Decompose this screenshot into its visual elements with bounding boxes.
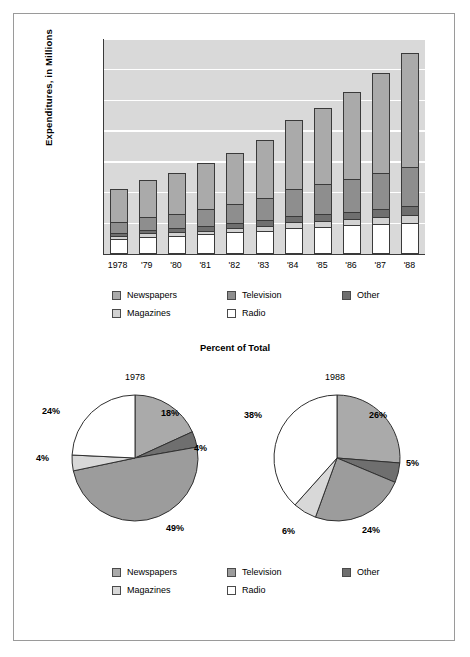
- pie-value-label: 24%: [362, 525, 380, 535]
- legend-item-television[interactable]: Television: [227, 290, 282, 300]
- legend-swatch-icon: [112, 586, 121, 595]
- plot-area: [103, 39, 425, 255]
- bar-segment-radio: [140, 238, 156, 253]
- bar[interactable]: [256, 140, 274, 254]
- pie-chart-legend: NewspapersTelevisionOtherMagazinesRadio: [112, 567, 442, 603]
- bar-segment-newspapers: [140, 181, 156, 219]
- pie-value-label: 26%: [369, 410, 387, 420]
- legend-swatch-icon: [342, 291, 351, 300]
- stacked-bar-chart: Expenditures, in Millions $0$20,000$40,0…: [14, 14, 456, 326]
- bar-segment-television: [402, 168, 418, 207]
- legend-swatch-icon: [342, 568, 351, 577]
- legend-label: Newspapers: [127, 290, 177, 300]
- x-tick-label: '88: [387, 260, 431, 270]
- bar-segment-radio: [344, 226, 360, 253]
- pie-section-title: Percent of Total: [14, 342, 456, 353]
- bar-segment-newspapers: [227, 154, 243, 205]
- pie-value-label: 6%: [282, 526, 295, 536]
- bar-segment-television: [169, 215, 185, 229]
- bar-segment-newspapers: [257, 141, 273, 199]
- legend-item-magazines[interactable]: Magazines: [112, 585, 171, 595]
- pie-chart-section: Percent of Total 1978 1988 18%4%49%4%24%…: [14, 330, 456, 642]
- bar-segment-television: [111, 223, 127, 234]
- bar-segment-radio: [198, 235, 214, 253]
- legend-swatch-icon: [227, 291, 236, 300]
- bar-segment-radio: [315, 228, 331, 253]
- bar[interactable]: [168, 173, 186, 254]
- legend-swatch-icon: [112, 568, 121, 577]
- legend-swatch-icon: [112, 291, 121, 300]
- bar[interactable]: [314, 108, 332, 254]
- pie-value-label: 18%: [161, 408, 179, 418]
- bar-segment-radio: [257, 232, 273, 253]
- bar-segment-radio: [286, 229, 302, 253]
- bar-segment-newspapers: [169, 174, 185, 215]
- pie-slice-radio[interactable]: [72, 395, 135, 458]
- pie-value-label: 24%: [42, 406, 60, 416]
- pie-year-1978: 1978: [95, 372, 175, 382]
- figure-frame: Expenditures, in Millions $0$20,000$40,0…: [13, 13, 455, 641]
- bar-segment-television: [373, 174, 389, 210]
- bar-segment-radio: [227, 233, 243, 253]
- pie-value-label: 49%: [166, 523, 184, 533]
- bar-segment-newspapers: [198, 164, 214, 211]
- bar[interactable]: [343, 92, 361, 254]
- legend-swatch-icon: [227, 586, 236, 595]
- bar-segment-newspapers: [286, 121, 302, 190]
- legend-label: Television: [242, 290, 282, 300]
- bar-segment-television: [140, 218, 156, 231]
- y-axis-label: Expenditures, in Millions: [43, 8, 54, 168]
- legend-swatch-icon: [227, 309, 236, 318]
- bar-segment-television: [198, 210, 214, 227]
- legend-item-other[interactable]: Other: [342, 290, 380, 300]
- bar-segment-magazines: [373, 218, 389, 225]
- bar-segment-newspapers: [111, 190, 127, 223]
- bar-segment-television: [286, 190, 302, 217]
- bar-segment-television: [227, 205, 243, 224]
- bar[interactable]: [197, 163, 215, 254]
- legend-swatch-icon: [227, 568, 236, 577]
- bar[interactable]: [285, 120, 303, 254]
- bar-segment-newspapers: [402, 54, 418, 168]
- bar[interactable]: [226, 153, 244, 254]
- pie-value-label: 4%: [36, 453, 49, 463]
- legend-item-radio[interactable]: Radio: [227, 585, 266, 595]
- pie-year-1988: 1988: [295, 372, 375, 382]
- bar[interactable]: [372, 73, 390, 254]
- legend-label: Magazines: [127, 585, 171, 595]
- legend-label: Radio: [242, 585, 266, 595]
- bar-segment-television: [344, 180, 360, 213]
- bar-segment-radio: [373, 225, 389, 253]
- bar[interactable]: [110, 189, 128, 254]
- bar-segment-television: [315, 185, 331, 215]
- pie-value-label: 38%: [244, 410, 262, 420]
- pie-value-label: 5%: [406, 458, 419, 468]
- bar-group: [104, 39, 425, 254]
- bar-segment-newspapers: [373, 74, 389, 174]
- bar-segment-magazines: [402, 216, 418, 224]
- bar-segment-other: [373, 210, 389, 218]
- bar-segment-newspapers: [315, 109, 331, 185]
- legend-item-radio[interactable]: Radio: [227, 308, 266, 318]
- legend-label: Radio: [242, 308, 266, 318]
- legend-label: Other: [357, 567, 380, 577]
- bar-segment-radio: [169, 237, 185, 253]
- bar[interactable]: [139, 180, 157, 254]
- pie-slice-newspapers[interactable]: [337, 395, 400, 463]
- bar[interactable]: [401, 53, 419, 254]
- bar-segment-radio: [402, 224, 418, 253]
- bar-segment-other: [402, 207, 418, 216]
- legend-item-newspapers[interactable]: Newspapers: [112, 290, 177, 300]
- legend-item-television[interactable]: Television: [227, 567, 282, 577]
- legend-swatch-icon: [112, 309, 121, 318]
- pie-value-label: 4%: [194, 443, 207, 453]
- legend-label: Newspapers: [127, 567, 177, 577]
- bar-segment-newspapers: [344, 93, 360, 180]
- pie-chart-1978: [69, 392, 201, 524]
- bar-segment-television: [257, 199, 273, 221]
- legend-item-magazines[interactable]: Magazines: [112, 308, 171, 318]
- legend-item-newspapers[interactable]: Newspapers: [112, 567, 177, 577]
- legend-label: Magazines: [127, 308, 171, 318]
- bar-segment-other: [315, 215, 331, 222]
- legend-item-other[interactable]: Other: [342, 567, 380, 577]
